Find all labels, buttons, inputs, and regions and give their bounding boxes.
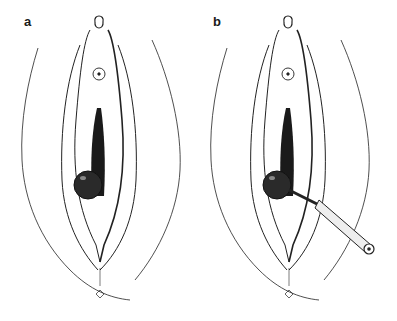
panel-b: b (199, 0, 397, 321)
panel-a: a (0, 0, 198, 321)
illustration-a (0, 0, 198, 321)
illustration-b (199, 0, 397, 321)
